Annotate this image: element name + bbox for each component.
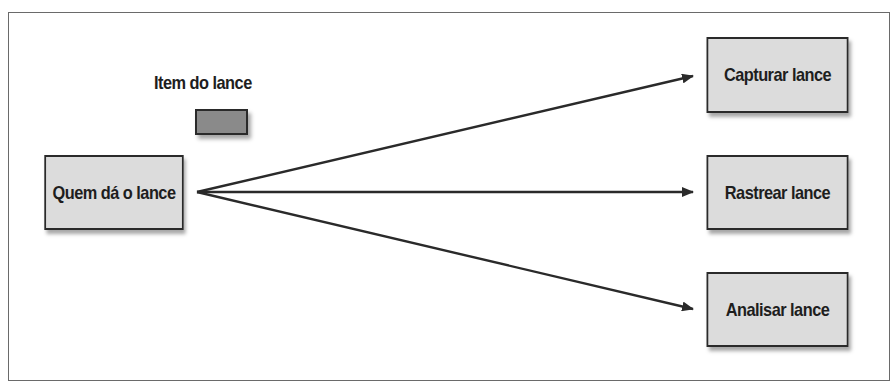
- node-capture-bid: Capturar lance: [707, 37, 849, 113]
- node-analyze-bid-label: Analisar lance: [726, 299, 830, 321]
- node-bidder: Quem dá o lance: [44, 155, 183, 230]
- node-track-bid-label: Rastrear lance: [725, 182, 830, 204]
- legend-label: Item do lance: [154, 72, 252, 94]
- node-track-bid: Rastrear lance: [707, 155, 849, 230]
- legend-swatch: [195, 109, 248, 135]
- node-capture-bid-label: Capturar lance: [724, 64, 831, 86]
- edge-bidder-to-analyze: [197, 192, 693, 309]
- node-analyze-bid: Analisar lance: [707, 272, 849, 347]
- node-bidder-label: Quem dá o lance: [52, 182, 175, 204]
- edge-bidder-to-capture: [197, 76, 693, 192]
